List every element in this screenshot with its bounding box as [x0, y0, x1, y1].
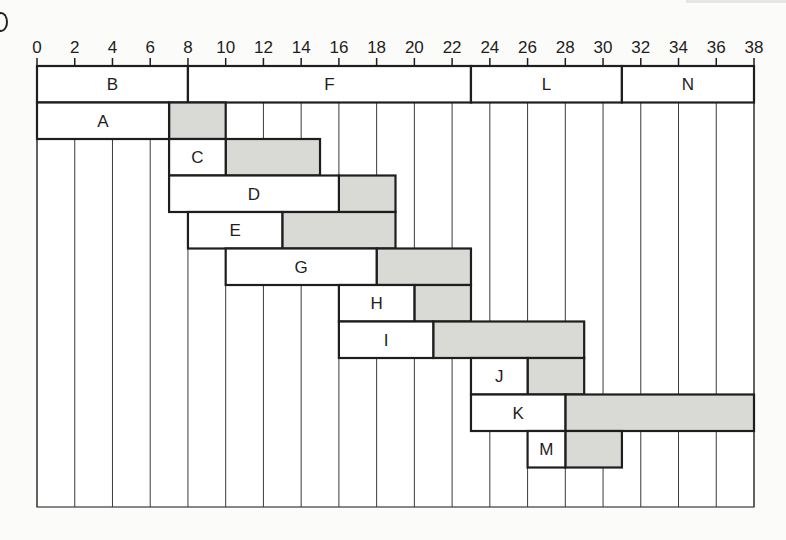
x-tick-label: 24	[480, 38, 499, 57]
task-bar-a-label: A	[97, 112, 109, 131]
task-bar-k-label: K	[512, 404, 524, 423]
slack-bar-c	[226, 139, 320, 176]
gantt-chart: 02468101214161820222426283032343638BFLNA…	[0, 0, 786, 540]
x-tick-label: 30	[594, 38, 613, 57]
critical-bar-b-label: B	[107, 75, 118, 94]
slack-bar-g	[377, 249, 471, 286]
task-bar-d-label: D	[248, 185, 260, 204]
x-tick-label: 4	[108, 38, 117, 57]
slack-bar-a	[169, 103, 226, 140]
task-bar-i-label: I	[384, 331, 389, 350]
x-tick-label: 14	[292, 38, 311, 57]
task-bar-e-label: E	[229, 221, 240, 240]
x-tick-label: 12	[254, 38, 273, 57]
slack-bar-e	[282, 212, 395, 249]
x-tick-label: 10	[216, 38, 235, 57]
x-tick-label: 36	[707, 38, 726, 57]
task-bar-g-label: G	[295, 258, 308, 277]
task-bar-h-label: H	[370, 294, 382, 313]
slack-bar-j	[528, 358, 585, 395]
x-tick-label: 8	[183, 38, 192, 57]
x-tick-label: 32	[631, 38, 650, 57]
task-bar-j-label: J	[495, 367, 504, 386]
slack-bar-h	[414, 285, 471, 322]
x-tick-label: 26	[518, 38, 537, 57]
x-tick-label: 16	[329, 38, 348, 57]
task-bar-m-label: M	[539, 440, 553, 459]
slack-bar-m	[565, 431, 622, 468]
x-tick-label: 0	[32, 38, 41, 57]
critical-bar-n-label: N	[682, 75, 694, 94]
x-tick-label: 28	[556, 38, 575, 57]
slack-bar-d	[339, 176, 396, 213]
task-bar-c-label: C	[191, 148, 203, 167]
x-tick-label: 18	[367, 38, 386, 57]
x-tick-label: 2	[70, 38, 79, 57]
x-tick-label: 38	[745, 38, 764, 57]
critical-bar-f-label: F	[324, 75, 334, 94]
x-tick-label: 22	[443, 38, 462, 57]
slack-bar-i	[433, 322, 584, 359]
critical-bar-l-label: L	[542, 75, 551, 94]
x-tick-label: 6	[145, 38, 154, 57]
slack-bar-k	[565, 395, 754, 432]
x-tick-label: 34	[669, 38, 688, 57]
x-tick-label: 20	[405, 38, 424, 57]
